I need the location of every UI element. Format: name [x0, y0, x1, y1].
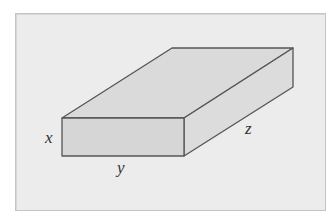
label-x: x [44, 128, 53, 147]
box-front-face [62, 118, 184, 156]
label-y: y [115, 158, 125, 177]
label-z: z [244, 119, 252, 138]
box-diagram: x y z [0, 0, 330, 217]
